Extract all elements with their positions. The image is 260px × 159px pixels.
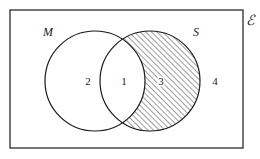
set-label-m: M [42,25,54,39]
region-number-1: 1 [121,75,127,87]
shaded-region-s-minus-m [0,0,260,159]
region-number-2: 2 [85,75,91,87]
region-number-4: 4 [212,75,218,87]
venn-diagram-container: M S ℰ 2 1 3 3 4 [0,0,260,159]
set-label-s: S [193,25,199,39]
venn-diagram-canvas: M S ℰ 2 1 3 3 4 [0,0,260,159]
region-number-3: 3 [158,75,164,87]
